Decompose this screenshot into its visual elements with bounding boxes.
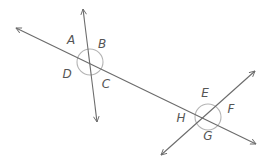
angle-label-d: D	[62, 67, 71, 81]
line-1	[83, 9, 97, 122]
angle-label-c: C	[102, 77, 111, 91]
angle-label-h: H	[176, 111, 185, 125]
angle-label-a: A	[66, 33, 75, 47]
angle-label-b: B	[98, 37, 106, 51]
angle-label-g: G	[203, 129, 212, 143]
angle-label-e: E	[201, 86, 209, 100]
transversal-line	[16, 28, 256, 144]
lines	[16, 9, 256, 155]
angle-diagram: A B C D E F G H	[0, 0, 274, 159]
intersection-circles	[77, 49, 221, 130]
angle-label-f: F	[228, 102, 236, 116]
